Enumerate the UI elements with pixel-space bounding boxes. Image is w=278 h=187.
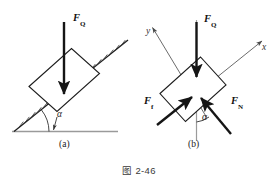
panel-label-a: (a) — [59, 140, 70, 150]
figure-2-46: FQ α (a) y x FQ Ff FN α (b) 图 2-46 — [0, 0, 278, 187]
block-b — [160, 57, 226, 122]
force-label-ff-b: Ff — [144, 96, 153, 109]
force-label-fn-b: FN — [231, 96, 243, 109]
panel-label-b: (b) — [188, 140, 199, 150]
figure-caption: 图 2-46 — [0, 163, 278, 177]
angle-label-alpha-b: α — [202, 113, 207, 123]
panel-a-drawing — [12, 22, 128, 132]
force-label-fq-a: FQ — [73, 13, 85, 26]
figure-drawing — [0, 0, 278, 187]
angle-alpha-arc-a — [42, 110, 50, 132]
axis-label-y-b: y — [146, 27, 150, 37]
force-label-fq-b: FQ — [204, 14, 216, 27]
axis-label-x-b: x — [262, 43, 266, 53]
panel-b-drawing — [153, 20, 263, 141]
angle-label-alpha-a: α — [57, 110, 62, 120]
